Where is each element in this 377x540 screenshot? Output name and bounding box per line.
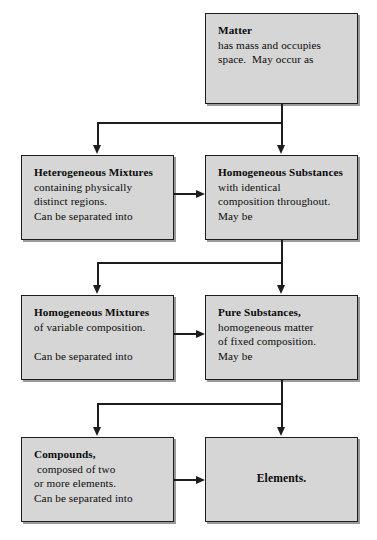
connector-pure-substances-left-drop xyxy=(97,403,99,428)
connector-matter-left-drop xyxy=(97,122,99,146)
connector-heterogeneous-to-homogeneous-line xyxy=(174,193,198,195)
connector-matter-stem xyxy=(281,104,283,123)
box-compounds-line-3: or more elements. xyxy=(34,476,173,491)
connector-matter-right-drop xyxy=(281,122,283,146)
box-homogeneous-substances-line-1: Homogeneous Substances xyxy=(218,165,357,180)
arrowhead-into-homogeneous-substances xyxy=(277,145,285,154)
box-homogeneous-substances-line-2: with identical xyxy=(218,180,357,195)
box-pure-substances-line-4: May be xyxy=(218,349,357,364)
box-homogeneous-substances-line-4: May be xyxy=(218,209,357,224)
box-compounds-line-2: composed of two xyxy=(34,462,173,477)
box-heterogeneous-mixtures: Heterogeneous Mixtures containing physic… xyxy=(21,155,174,240)
arrowhead-into-compounds xyxy=(93,427,101,436)
arrowhead-into-homogeneous-mixtures xyxy=(93,285,101,294)
box-compounds-line-1: Compounds, xyxy=(34,447,173,462)
box-matter-line-2: has mass and occupies xyxy=(218,38,357,53)
arrowhead-into-elements-side xyxy=(196,476,205,484)
box-heterogeneous-mixtures-line-4: Can be separated into xyxy=(34,209,173,224)
arrowhead-into-elements xyxy=(277,427,285,436)
box-heterogeneous-mixtures-line-3: distinct regions. xyxy=(34,194,173,209)
connector-pure-substances-right-drop xyxy=(281,403,283,428)
box-compounds: Compounds, composed of two or more eleme… xyxy=(21,437,174,522)
box-elements-line-1: Elements. xyxy=(257,472,307,487)
arrowhead-into-homogeneous-substances-side xyxy=(196,190,205,198)
box-homogeneous-mixtures-line-2: of variable composition. xyxy=(34,320,173,335)
box-homogeneous-mixtures: Homogeneous Mixtures of variable composi… xyxy=(21,295,174,380)
connector-homogeneous-substances-left-drop xyxy=(97,262,99,286)
connector-pure-substances-stem xyxy=(281,380,283,404)
arrowhead-into-heterogeneous-mixtures xyxy=(93,145,101,154)
arrowhead-into-pure-substances-side xyxy=(196,330,205,338)
box-pure-substances-line-2: homogeneous matter xyxy=(218,320,357,335)
connector-pure-substances-bar xyxy=(97,403,283,405)
box-matter-line-1: Matter xyxy=(218,23,357,38)
box-homogeneous-mixtures-line-4: Can be separated into xyxy=(34,349,173,364)
box-homogeneous-mixtures-line-1: Homogeneous Mixtures xyxy=(34,305,173,320)
box-matter: Matter has mass and occupies space. May … xyxy=(205,13,358,104)
box-heterogeneous-mixtures-line-1: Heterogeneous Mixtures xyxy=(34,165,173,180)
connector-homogeneous-mixtures-to-pure-substances-line xyxy=(174,333,198,335)
box-homogeneous-substances-line-3: composition throughout. xyxy=(218,194,357,209)
box-pure-substances-line-1: Pure Substances, xyxy=(218,305,357,320)
arrowhead-into-pure-substances xyxy=(277,285,285,294)
connector-matter-bar xyxy=(97,122,283,124)
box-elements: Elements. xyxy=(205,437,358,522)
box-pure-substances: Pure Substances, homogeneous matter of f… xyxy=(205,295,358,380)
connector-homogeneous-substances-bar xyxy=(97,262,283,264)
box-matter-line-3: space. May occur as xyxy=(218,52,357,67)
connector-homogeneous-substances-right-drop xyxy=(281,262,283,286)
connector-compounds-to-elements-line xyxy=(174,479,198,481)
box-heterogeneous-mixtures-line-2: containing physically xyxy=(34,180,173,195)
box-compounds-line-4: Can be separated into xyxy=(34,491,173,506)
box-pure-substances-line-3: of fixed composition. xyxy=(218,334,357,349)
connector-homogeneous-substances-stem xyxy=(281,240,283,263)
box-homogeneous-substances: Homogeneous Substances with identical co… xyxy=(205,155,358,240)
matter-classification-flowchart: Matter has mass and occupies space. May … xyxy=(0,0,377,540)
